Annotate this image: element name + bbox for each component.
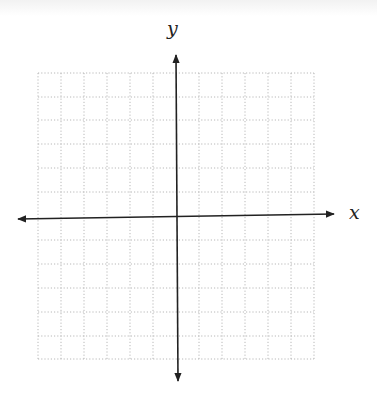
y-axis-label: y [166, 17, 178, 39]
x-axis-label: x [349, 201, 360, 223]
y-axis-arrow [176, 55, 178, 381]
x-axis-arrow [18, 214, 334, 219]
coordinate-plane: x y [0, 0, 377, 399]
